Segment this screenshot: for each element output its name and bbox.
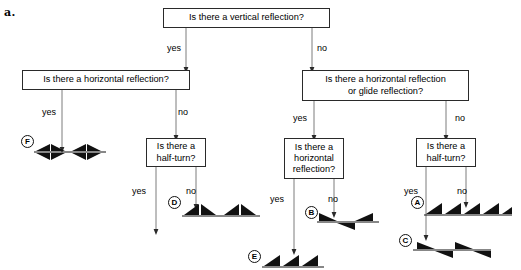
result-marker-a: A <box>411 196 424 209</box>
edge-label-no-vertical: no <box>317 43 327 53</box>
frieze-pattern-b <box>317 209 379 233</box>
edge-label-yes-half-turn-right: yes <box>404 186 418 196</box>
edge-label-no-half-turn-right: no <box>457 186 467 196</box>
edge-label-no-horizontal-middle: no <box>328 194 338 204</box>
edge-label-yes-half-turn-left: yes <box>132 186 146 196</box>
edge-label-yes-vertical: yes <box>167 43 181 53</box>
frieze-pattern-e <box>262 252 324 268</box>
frieze-pattern-c <box>413 236 491 262</box>
result-marker-e: E <box>248 250 261 263</box>
question-box-half-turn-right[interactable]: Is there a half-turn? <box>416 138 476 167</box>
frieze-pattern-f <box>34 139 106 165</box>
flowchart-canvas: a. <box>0 0 521 270</box>
flowchart-connectors <box>0 0 521 270</box>
question-box-vertical-reflection[interactable]: Is there a vertical reflection? <box>163 8 330 28</box>
edge-label-yes-horizontal-middle: yes <box>270 194 284 204</box>
edge-label-yes-horizontal-left: yes <box>42 107 56 117</box>
frieze-pattern-a <box>424 199 512 219</box>
result-marker-d: D <box>168 196 181 209</box>
result-marker-c: C <box>399 234 412 247</box>
frieze-pattern-d <box>182 200 260 220</box>
result-marker-f: F <box>21 135 34 148</box>
question-box-horizontal-reflection-middle[interactable]: Is there a horizontal reflection? <box>284 138 344 179</box>
edge-label-no-horizontal-left: no <box>178 107 188 117</box>
question-box-half-turn-left[interactable]: Is there a half-turn? <box>146 138 206 167</box>
edge-label-no-horizontal-or-glide: no <box>455 113 465 123</box>
question-box-horizontal-reflection-left[interactable]: Is there a horizontal reflection? <box>22 70 190 90</box>
question-box-horizontal-or-glide-reflection[interactable]: Is there a horizontal reflection or glid… <box>302 70 469 101</box>
edge-label-no-half-turn-left: no <box>186 186 196 196</box>
edge-label-yes-horizontal-or-glide: yes <box>293 113 307 123</box>
